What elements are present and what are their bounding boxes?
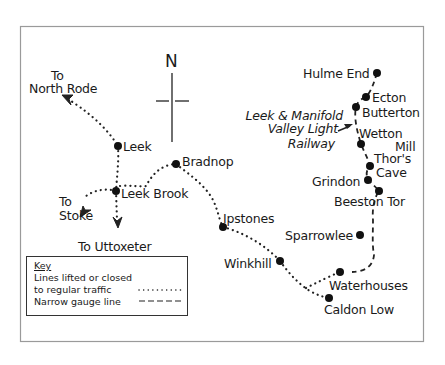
- label-winkhill: Winkhill: [224, 257, 271, 270]
- legend-closed-label-line1: Lines lifted or closed: [34, 272, 132, 283]
- legend-dashed-swatch: [138, 298, 182, 304]
- station-dot-sparrowlee: [356, 231, 364, 239]
- station-dot-caldon-low: [325, 294, 333, 302]
- label-to-stoke-line1: To: [59, 195, 72, 208]
- station-dot-hulme-end: [373, 69, 381, 77]
- arrow-north-rode-icon: [62, 95, 73, 105]
- arrow-uttoxeter-icon: [113, 217, 122, 228]
- line-leekbrook-uttoxeter: [116, 191, 117, 220]
- station-dot-thors-cave: [366, 162, 374, 170]
- legend-closed-label-line2: to regular traffic: [34, 284, 111, 295]
- station-dot-winkhill: [276, 257, 284, 265]
- legend-dotted-swatch: [138, 287, 182, 293]
- label-cave: Cave: [376, 166, 407, 179]
- label-to-north-rode-line2: North Rode: [29, 82, 97, 95]
- north-arrow-icon: [156, 73, 189, 142]
- line-north-rode-leek: [68, 99, 118, 146]
- label-caldon-low: Caldon Low: [324, 303, 394, 316]
- label-railway-line2: Valley Light: [232, 122, 338, 135]
- label-leek: Leek: [123, 140, 152, 153]
- station-dot-butterton: [352, 103, 360, 111]
- label-to-uttoxeter: To Uttoxeter: [78, 240, 151, 253]
- label-ipstones: Ipstones: [223, 212, 274, 225]
- label-butterton: Butterton: [362, 106, 420, 119]
- railway-label-pointer-icon: [338, 124, 353, 131]
- label-railway-line3: Railway: [232, 137, 335, 150]
- label-hulme-end: Hulme End: [303, 67, 370, 80]
- label-to-stoke-line2: Stoke: [59, 209, 93, 222]
- station-dot-bradnop: [172, 160, 180, 168]
- station-dot-waterhouses: [336, 268, 344, 276]
- label-ecton: Ecton: [372, 91, 406, 104]
- label-sparrowlee: Sparrowlee: [285, 229, 353, 242]
- label-grindon: Grindon: [312, 175, 360, 188]
- legend-title: Key: [34, 260, 51, 271]
- line-winkhill-caldonlow: [280, 261, 329, 298]
- label-beeston-tor: Beeston Tor: [334, 195, 405, 208]
- station-dot-leek-brook: [112, 187, 120, 195]
- label-waterhouses: Waterhouses: [329, 279, 408, 292]
- station-dot-leek: [114, 142, 122, 150]
- line-leek-leekbrook: [116, 146, 118, 191]
- legend-narrow-gauge-label: Narrow gauge line: [34, 296, 121, 307]
- line-leekbrook-bradnop: [120, 164, 176, 186]
- compass-north-label: N: [165, 53, 178, 70]
- map-legend: Key Lines lifted or closed to regular tr…: [26, 256, 188, 316]
- station-dot-ecton: [362, 93, 370, 101]
- station-dot-grindon: [364, 176, 372, 184]
- label-leek-brook: Leek Brook: [121, 187, 188, 200]
- station-dot-wetton-mill: [357, 140, 365, 148]
- line-leekbrook-stoke: [86, 190, 116, 196]
- label-bradnop: Bradnop: [182, 155, 233, 168]
- label-thors: Thor's: [374, 152, 411, 165]
